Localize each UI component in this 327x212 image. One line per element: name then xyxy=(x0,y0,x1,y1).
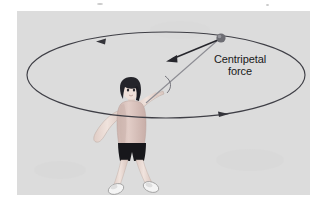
margin-speck-top-left xyxy=(97,3,103,5)
margin-speck-top-right xyxy=(266,4,269,6)
ball-highlight xyxy=(218,35,222,39)
panel-texture xyxy=(34,21,284,179)
orbit-arrow-top-left-icon xyxy=(96,39,106,45)
centripetal-force-arrowhead xyxy=(166,55,178,63)
force-label-line-1: Centripetal xyxy=(214,53,266,65)
person-shorts xyxy=(118,143,146,161)
person-left-shoe xyxy=(107,182,125,197)
person-figure xyxy=(94,77,164,196)
diagram-canvas xyxy=(0,0,327,212)
orbit-ellipse-front xyxy=(27,75,305,118)
physics-diagram-figure: Centripetal force xyxy=(0,0,327,212)
ball xyxy=(216,33,225,42)
person-eye-right xyxy=(133,89,135,92)
person-eye-left xyxy=(127,89,129,92)
person-shirt-shading xyxy=(120,104,127,144)
centripetal-force-label: Centripetal force xyxy=(201,54,279,77)
force-label-line-2: force xyxy=(201,66,279,78)
orbit-arrow-bottom-right-icon xyxy=(218,112,229,118)
